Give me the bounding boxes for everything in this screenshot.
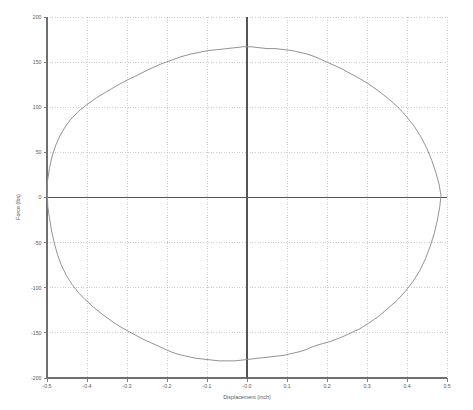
x-axis-title: Displacement (inch) <box>223 394 271 400</box>
y-axis-title: Force (lbs) <box>15 194 21 220</box>
chart-figure: -200-150-100-50050100150200 -0.5-0.4-0.3… <box>0 0 473 410</box>
tick-label-x: -0.0 <box>243 383 252 389</box>
tick-label-x: 0.1 <box>283 383 290 389</box>
tick-label-y: 0 <box>39 194 42 200</box>
tick-label-x: 0.3 <box>363 383 370 389</box>
tick-label-y: -50 <box>34 240 42 246</box>
tick-label-y: 150 <box>33 59 42 65</box>
tick-label-x: 0.4 <box>403 383 410 389</box>
tick-label-y: -100 <box>31 285 41 291</box>
tick-label-x: 0.5 <box>443 383 450 389</box>
tick-label-x: -0.4 <box>83 383 92 389</box>
tick-label-x: -0.3 <box>123 383 132 389</box>
tick-label-y: 50 <box>36 149 42 155</box>
tick-label-x: -0.2 <box>163 383 172 389</box>
tick-label-y: -150 <box>31 330 41 336</box>
force-displacement-plot: -200-150-100-50050100150200 -0.5-0.4-0.3… <box>0 0 473 410</box>
tick-label-y: 200 <box>33 14 42 20</box>
tick-label-x: 0.2 <box>323 383 330 389</box>
tick-label-x: -0.5 <box>43 383 52 389</box>
tick-label-y: -200 <box>31 375 41 381</box>
figure-background <box>0 0 473 410</box>
tick-label-y: 100 <box>33 104 42 110</box>
tick-label-x: -0.1 <box>203 383 212 389</box>
